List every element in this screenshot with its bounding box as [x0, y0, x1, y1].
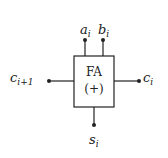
full-adder-diagram: FA (+) ai bi ci+1 ci si [0, 0, 168, 158]
sum-label: si [89, 132, 99, 149]
block-operator: (+) [84, 82, 103, 96]
carry-in-terminal [47, 79, 51, 83]
carry-out-terminal [137, 79, 141, 83]
input-a-terminal [83, 38, 87, 42]
carry-out-label: ci [143, 70, 153, 87]
carry-in-label: ci+1 [10, 70, 33, 87]
input-b-terminal [101, 38, 105, 42]
input-a-label: ai [80, 22, 91, 39]
input-b-label: bi [98, 22, 109, 39]
sum-terminal [92, 123, 96, 127]
block-name: FA [86, 65, 102, 79]
